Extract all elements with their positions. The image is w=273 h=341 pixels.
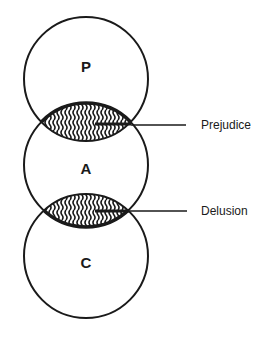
annotation-delusion: Delusion [201,204,248,218]
venn-diagram: P A C Prejudice Delusion [0,0,273,341]
label-c: C [81,254,92,271]
annotation-prejudice: Prejudice [201,118,251,132]
label-p: P [81,58,91,75]
label-a: A [81,160,92,177]
